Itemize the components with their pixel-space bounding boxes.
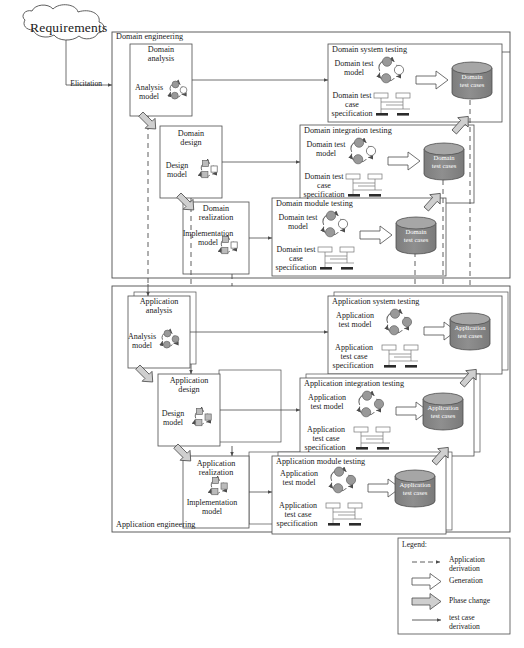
domain-integration-test-model-line2: model (302, 150, 350, 158)
legend-item-2-line1: Phase change (449, 597, 511, 606)
domain-integration-test-cases-line2: test cases (424, 162, 464, 169)
application-integration-test-model-line2: test model (302, 403, 352, 411)
legend-title: Legend: (402, 541, 462, 549)
application-system-test-cases-line1: Application (450, 324, 490, 331)
application-analysis-title-line2: analysis (128, 307, 190, 316)
domain-system-testing-title: Domain system testing (332, 46, 462, 55)
domain-integration-test-cases-line1: Domain (424, 154, 464, 161)
application-system-test-model-line2: test model (330, 321, 380, 329)
application-integration-testing-title: Application integration testing (304, 380, 464, 389)
application-system-spec-line3: specification (326, 362, 380, 370)
domain-module-test-model-line2: model (274, 223, 322, 231)
elicitation-label: Elicitation (40, 80, 102, 88)
figure-canvas: Requirements Elicitation Domain engineer… (0, 0, 524, 648)
application-module-test-model-line2: test model (274, 479, 324, 487)
application-analysis-artifact-line2: model (121, 342, 163, 350)
application-integration-test-cases-line2: test cases (423, 412, 463, 419)
legend-item-3-line2: derivation (449, 623, 511, 632)
legend-item-1-line1: Generation (449, 577, 511, 586)
domain-design-artifact-line2: model (158, 171, 196, 179)
application-engineering-label: Application engineering (116, 521, 256, 530)
domain-module-test-cases-line1: Domain (396, 228, 436, 235)
application-realization-artifact-line2: model (182, 508, 242, 516)
application-module-test-cases-line2: test cases (395, 489, 435, 496)
domain-system-test-cases-line2: test cases (452, 81, 492, 88)
application-integration-test-cases-line1: Application (423, 404, 463, 411)
application-design-title-line2: design (158, 386, 220, 395)
diagram-svg (0, 0, 524, 648)
domain-analysis-artifact-line2: model (128, 93, 170, 101)
domain-system-test-model-line2: model (330, 69, 378, 77)
application-integration-spec-line3: specification (298, 444, 352, 452)
domain-system-test-cases-line1: Domain (452, 73, 492, 80)
application-module-spec-line3: specification (270, 520, 324, 528)
domain-engineering-label: Domain engineering (116, 33, 236, 42)
domain-realization-title-line2: realization (183, 214, 249, 223)
application-system-testing-title: Application system testing (332, 298, 480, 307)
domain-module-spec-line3: specification (270, 264, 322, 272)
application-module-testing-title: Application module testing (276, 458, 426, 467)
application-module-test-cases-line1: Application (395, 481, 435, 488)
domain-module-test-cases-line2: test cases (396, 236, 436, 243)
legend-item-0-line2: derivation (449, 565, 511, 574)
requirements-cloud-label: Requirements (30, 21, 102, 35)
application-system-test-cases-line2: test cases (450, 332, 490, 339)
application-realization-title-line2: realization (183, 469, 249, 478)
domain-module-testing-title: Domain module testing (276, 200, 416, 209)
domain-realization-artifact-line2: model (180, 239, 236, 247)
domain-system-spec-line3: specification (326, 110, 378, 118)
domain-integration-testing-title: Domain integration testing (304, 127, 449, 136)
application-design-artifact-line2: model (155, 419, 191, 427)
domain-design-title-line2: design (160, 139, 222, 148)
domain-analysis-title-line2: analysis (130, 55, 192, 64)
